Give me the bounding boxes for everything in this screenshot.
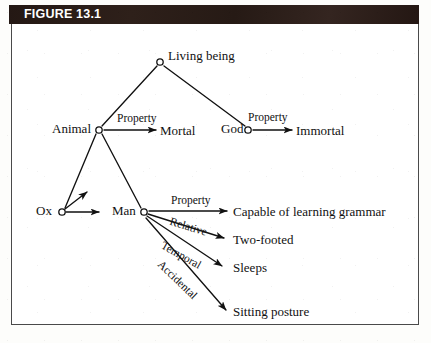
node-label-ox: Ox: [36, 203, 52, 219]
figure-page: FIGURE 13.1: [0, 0, 431, 343]
edge-living-to-god: [164, 66, 245, 126]
node-label-animal: Animal: [52, 121, 91, 137]
node-man[interactable]: [141, 209, 147, 215]
node-animal[interactable]: [96, 127, 102, 133]
node-label-mortal: Mortal: [160, 123, 195, 139]
node-label-two-footed: Two-footed: [233, 232, 293, 248]
edge-animal-to-man: [102, 134, 141, 208]
node-label-immortal: Immortal: [296, 123, 344, 139]
node-god[interactable]: [245, 127, 251, 133]
edge-label-god-property: Property: [248, 111, 288, 123]
edge-label-man-property: Property: [171, 194, 211, 206]
node-ox[interactable]: [59, 209, 65, 215]
node-label-sitting-posture: Sitting posture: [233, 304, 309, 320]
node-label-man: Man: [112, 203, 136, 219]
edge-label-animal-property: Property: [117, 112, 157, 124]
figure-number-label: FIGURE 13.1: [24, 7, 101, 22]
node-circles: [59, 59, 251, 215]
node-label-capable-of-learning-grammar: Capable of learning grammar: [233, 204, 386, 220]
node-label-god: God: [221, 121, 243, 137]
node-label-living-being: Living being: [168, 48, 235, 64]
node-living-being[interactable]: [157, 59, 163, 65]
node-label-sleeps: Sleeps: [233, 260, 267, 276]
isa-edges: [65, 66, 245, 208]
figure-title-bar: FIGURE 13.1: [9, 5, 419, 24]
